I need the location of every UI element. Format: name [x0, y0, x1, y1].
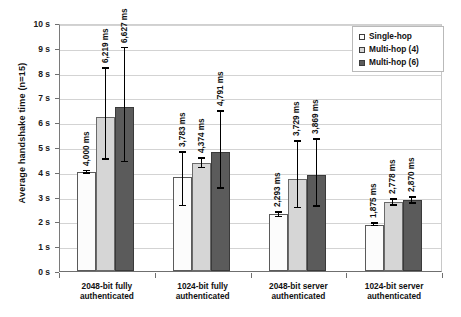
- bar-value-label: 4,374 ms: [198, 118, 206, 153]
- gridline: [60, 99, 441, 100]
- bar-value-label: 6,219 ms: [102, 29, 110, 64]
- legend-label: Multi-hop (4): [369, 45, 419, 54]
- bar-value-label: 2,870 ms: [408, 157, 416, 192]
- error-bar-cap: [121, 47, 128, 49]
- y-axis-tick-label: 1 s: [8, 243, 50, 251]
- y-axis-tick-label: 2 s: [8, 218, 50, 226]
- error-bar-cap: [217, 110, 224, 112]
- y-axis-tick-label: 5 s: [8, 144, 50, 152]
- error-bar: [182, 152, 183, 205]
- error-bar-cap: [409, 202, 416, 204]
- category-separator: [155, 273, 156, 278]
- error-bar-cap: [121, 161, 128, 163]
- error-bar-cap: [179, 205, 186, 207]
- category-label: 2048-bit serverauthenticated: [251, 281, 347, 301]
- y-axis-tick-label: 4 s: [8, 169, 50, 177]
- legend-label: Single-hop: [369, 32, 412, 41]
- legend-item: Multi-hop (6): [359, 56, 443, 69]
- legend-swatch-single-hop: [359, 34, 365, 40]
- error-bar-cap: [313, 205, 320, 207]
- bar-value-label: 4,000 ms: [83, 131, 91, 166]
- category-separator: [251, 273, 252, 278]
- y-axis-tick-label: 7 s: [8, 94, 50, 102]
- error-bar-cap: [409, 196, 416, 198]
- error-bar-cap: [275, 216, 282, 218]
- y-axis-tick-label: 3 s: [8, 194, 50, 202]
- category-label: 1024-bit fullyauthenticated: [155, 281, 251, 301]
- bar-value-label: 3,783 ms: [179, 112, 187, 147]
- legend-swatch-multi-hop-4: [359, 47, 365, 53]
- bar-value-label: 2,293 ms: [274, 172, 282, 207]
- bar: [77, 172, 96, 271]
- error-bar-cap: [294, 140, 301, 142]
- bar: [269, 214, 288, 271]
- y-axis-tick-label: 0 s: [8, 268, 50, 276]
- legend-label: Multi-hop (6): [369, 58, 419, 67]
- error-bar-cap: [83, 170, 90, 172]
- error-bar: [297, 141, 298, 208]
- error-bar-cap: [198, 167, 205, 169]
- error-bar-cap: [102, 158, 109, 160]
- legend-item: Multi-hop (4): [359, 43, 443, 56]
- handshake-time-bar-chart: Average handshake time (n=15) 0 s1 s2 s3…: [0, 0, 461, 317]
- error-bar-cap: [179, 151, 186, 153]
- error-bar-cap: [275, 211, 282, 213]
- bar: [192, 163, 211, 271]
- error-bar-cap: [371, 222, 378, 224]
- y-axis-tick-label: 8 s: [8, 70, 50, 78]
- category-separator: [59, 273, 60, 278]
- error-bar-cap: [313, 138, 320, 140]
- error-bar-cap: [390, 204, 397, 206]
- error-bar-cap: [102, 67, 109, 69]
- category-label: 1024-bit serverauthenticated: [346, 281, 442, 301]
- legend-item: Single-hop: [359, 30, 443, 43]
- legend: Single-hop Multi-hop (4) Multi-hop (6): [352, 26, 444, 72]
- error-bar: [220, 111, 221, 188]
- error-bar-cap: [198, 157, 205, 159]
- bar-value-label: 3,729 ms: [293, 101, 301, 136]
- category-separator: [346, 273, 347, 278]
- gridline: [60, 75, 441, 76]
- error-bar-cap: [83, 172, 90, 174]
- error-bar-cap: [371, 225, 378, 227]
- error-bar: [124, 48, 125, 162]
- category-label: 2048-bit fullyauthenticated: [59, 281, 155, 301]
- bar: [365, 225, 384, 272]
- y-axis-tick-label: 9 s: [8, 45, 50, 53]
- error-bar: [105, 68, 106, 159]
- category-separator: [442, 273, 443, 278]
- bar-value-label: 4,791 ms: [217, 71, 225, 106]
- bar-value-label: 6,627 ms: [121, 8, 129, 43]
- bar: [403, 200, 422, 271]
- bar-value-label: 1,875 ms: [370, 184, 378, 219]
- error-bar: [316, 139, 317, 206]
- bar: [384, 202, 403, 271]
- error-bar-cap: [294, 207, 301, 209]
- error-bar-cap: [390, 198, 397, 200]
- y-axis-tick-label: 10 s: [8, 20, 50, 28]
- bar-value-label: 3,869 ms: [312, 99, 320, 134]
- error-bar-cap: [217, 187, 224, 189]
- y-axis-tick-label: 6 s: [8, 119, 50, 127]
- bar-value-label: 2,778 ms: [389, 159, 397, 194]
- y-axis-title: Average handshake time (n=15): [17, 33, 27, 233]
- legend-swatch-multi-hop-6: [359, 60, 365, 66]
